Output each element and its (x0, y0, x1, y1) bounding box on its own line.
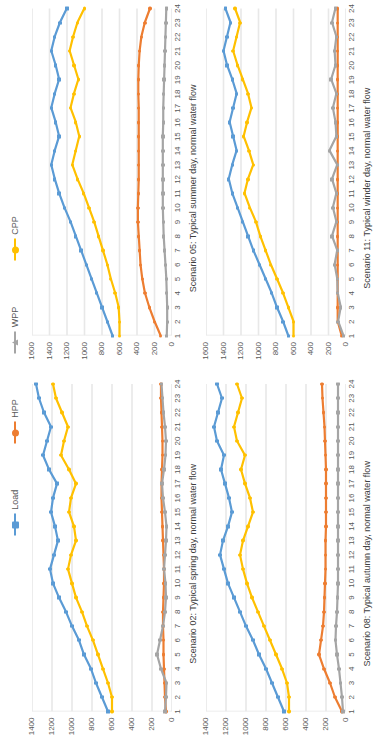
y-tick-label: 0 (168, 717, 176, 721)
legend-marker-cpp-icon (14, 238, 16, 260)
chart-panel: 0200400600800100012001400123456789101112… (26, 376, 200, 751)
x-tick-label: 24 (174, 4, 182, 13)
x-tick-label: 3 (174, 680, 182, 684)
y-tick-label: 600 (116, 342, 124, 355)
panel-grid: 0200400600800100012001400123456789101112… (26, 0, 374, 751)
x-tick-label: 17 (174, 103, 182, 112)
x-tick-label: 10 (348, 578, 356, 587)
x-tick-label: 2 (348, 319, 356, 323)
x-tick-label: 21 (348, 422, 356, 431)
x-tick-label: 12 (348, 174, 356, 183)
y-tick-label: 400 (133, 342, 141, 355)
x-tick-label: 21 (174, 422, 182, 431)
x-tick-label: 14 (348, 521, 356, 530)
x-tick-label: 8 (348, 234, 356, 238)
x-tick-label: 19 (174, 75, 182, 84)
x-tick-label: 1 (174, 709, 182, 713)
y-tick-label: 1200 (63, 342, 71, 360)
y-tick-label: 1400 (202, 717, 210, 735)
x-tick-label: 5 (174, 276, 182, 280)
x-tick-label: 9 (174, 219, 182, 223)
panel-title: Scenario 08: Typical autumn day, normal … (360, 376, 374, 751)
x-tick-label: 20 (348, 61, 356, 70)
x-tick-label: 1 (348, 709, 356, 713)
y-tick-label: 0 (342, 342, 350, 346)
x-tick-label: 12 (174, 174, 182, 183)
x-tick-label: 1 (174, 333, 182, 337)
plot-area (206, 8, 346, 336)
y-axis-labels: 02004006008001000120014001600 (32, 338, 172, 376)
x-tick-label: 7 (348, 248, 356, 252)
legend-item-hpp[interactable]: HPP (11, 399, 20, 444)
x-tick-label: 7 (174, 623, 182, 627)
x-axis-labels: 123456789101112131415161718192021222324 (174, 384, 186, 712)
y-tick-label: 400 (128, 717, 136, 730)
x-tick-label: 18 (174, 89, 182, 98)
legend-item-load[interactable]: Load (11, 489, 20, 535)
y-axis-labels: 02004006008001000120014001600 (206, 338, 346, 376)
y-tick-label: 800 (262, 717, 270, 730)
x-tick-label: 14 (174, 146, 182, 155)
x-tick-label: 15 (174, 132, 182, 141)
legend-item-cpp[interactable]: CPP (11, 216, 20, 261)
x-tick-label: 3 (348, 680, 356, 684)
multi-panel-line-chart-figure: LoadHPPWPPCPP 02004006008001000120014001… (0, 0, 376, 751)
y-tick-label: 600 (290, 342, 298, 355)
y-tick-label: 800 (88, 717, 96, 730)
legend-marker-load-icon (14, 513, 16, 535)
x-tick-label: 15 (174, 507, 182, 516)
x-tick-label: 1 (348, 333, 356, 337)
x-tick-label: 15 (348, 132, 356, 141)
x-tick-label: 7 (174, 248, 182, 252)
x-tick-label: 3 (174, 305, 182, 309)
x-tick-label: 23 (348, 393, 356, 402)
x-tick-label: 9 (348, 595, 356, 599)
x-tick-label: 16 (174, 493, 182, 502)
legend-label: HPP (11, 399, 20, 418)
x-tick-label: 8 (174, 609, 182, 613)
x-tick-label: 17 (348, 103, 356, 112)
plot-lines (32, 384, 172, 712)
y-tick-label: 1400 (220, 342, 228, 360)
x-tick-label: 23 (174, 18, 182, 27)
plot-lines (32, 8, 172, 336)
legend-item-wpp[interactable]: WPP (11, 306, 20, 353)
x-tick-label: 21 (174, 46, 182, 55)
x-tick-label: 11 (348, 189, 356, 197)
x-tick-label: 2 (174, 695, 182, 699)
y-tick-label: 200 (325, 342, 333, 355)
legend-marker-hpp-icon (14, 421, 16, 443)
x-tick-label: 16 (348, 493, 356, 502)
x-tick-label: 3 (348, 305, 356, 309)
x-tick-label: 13 (174, 536, 182, 545)
x-tick-label: 19 (348, 450, 356, 459)
y-tick-label: 600 (108, 717, 116, 730)
x-tick-label: 6 (174, 638, 182, 642)
x-tick-label: 14 (348, 146, 356, 155)
y-tick-label: 400 (307, 342, 315, 355)
y-tick-label: 1200 (237, 342, 245, 360)
x-tick-label: 9 (174, 595, 182, 599)
y-tick-label: 200 (322, 717, 330, 730)
x-tick-label: 20 (348, 436, 356, 445)
x-tick-label: 11 (348, 564, 356, 572)
x-tick-label: 8 (174, 234, 182, 238)
x-tick-label: 8 (348, 609, 356, 613)
x-tick-label: 6 (348, 638, 356, 642)
x-tick-label: 5 (348, 276, 356, 280)
x-tick-label: 4 (174, 291, 182, 295)
y-tick-label: 400 (302, 717, 310, 730)
y-tick-label: 1400 (46, 342, 54, 360)
panel-title: Scenario 05: Typical summer day, normal … (186, 0, 200, 376)
x-tick-label: 20 (174, 436, 182, 445)
x-tick-label: 4 (174, 666, 182, 670)
y-tick-label: 0 (342, 717, 350, 721)
x-tick-label: 12 (348, 550, 356, 559)
y-tick-label: 800 (272, 342, 280, 355)
y-tick-label: 1600 (202, 342, 210, 360)
chart-legend: LoadHPPWPPCPP (4, 0, 26, 751)
x-tick-label: 23 (174, 393, 182, 402)
x-tick-label: 22 (174, 408, 182, 417)
x-tick-label: 24 (174, 379, 182, 388)
x-tick-label: 17 (348, 479, 356, 488)
